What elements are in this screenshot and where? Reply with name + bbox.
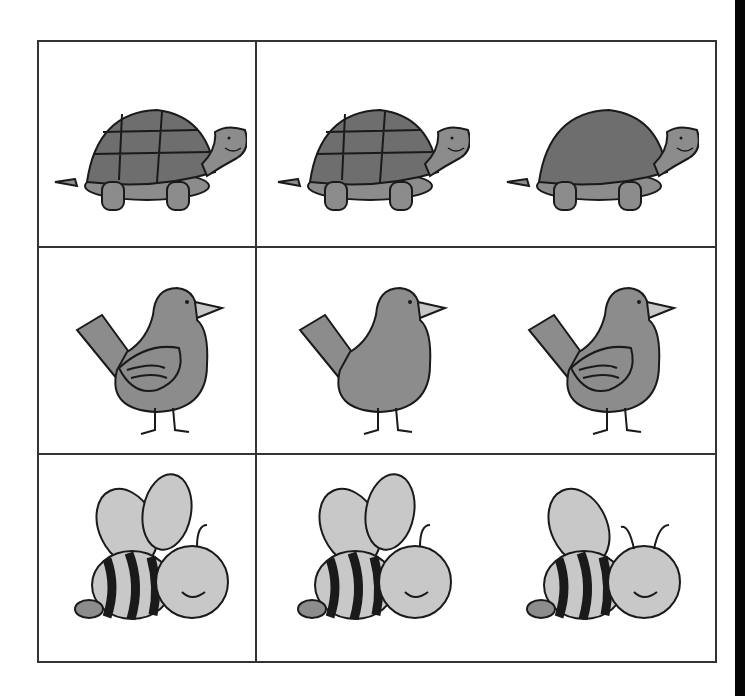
turtle-icon	[47, 54, 247, 234]
cell-bee-reference[interactable]	[39, 455, 255, 659]
cell-bird-option-1[interactable]	[257, 248, 483, 452]
scan-edge-bar	[735, 0, 745, 696]
turtle-icon	[270, 54, 470, 234]
matching-worksheet-grid	[37, 40, 717, 663]
bird-icon	[47, 260, 247, 440]
cell-turtle-option-1[interactable]	[257, 42, 483, 246]
cell-bird-option-2[interactable]	[483, 248, 715, 452]
bee-icon	[47, 467, 247, 647]
turtle-icon	[499, 54, 699, 234]
bee-icon	[499, 467, 699, 647]
cell-bee-option-2[interactable]	[483, 455, 715, 659]
cell-turtle-reference[interactable]	[39, 42, 255, 246]
cell-bee-option-1[interactable]	[257, 455, 483, 659]
cell-turtle-option-2[interactable]	[483, 42, 715, 246]
bird-icon	[499, 260, 699, 440]
bird-icon	[270, 260, 470, 440]
bee-icon	[270, 467, 470, 647]
cell-bird-reference[interactable]	[39, 248, 255, 452]
